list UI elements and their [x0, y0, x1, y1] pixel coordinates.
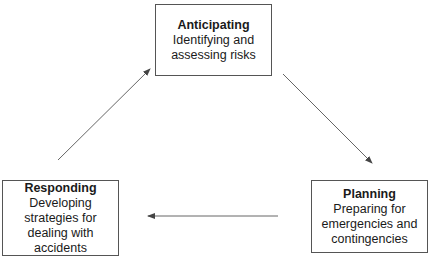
node-text-line: contingencies	[331, 232, 407, 247]
node-responding: Responding Developing strategies for dea…	[2, 180, 119, 256]
node-title: Planning	[343, 187, 396, 202]
node-text-line: Developing	[29, 196, 92, 211]
node-text-line: accidents	[34, 241, 87, 256]
node-text-line: strategies for	[24, 211, 96, 226]
arrow-anticipating-to-planning	[283, 74, 372, 163]
node-title: Responding	[24, 181, 96, 196]
node-text-line: dealing with	[27, 226, 93, 241]
arrow-responding-to-anticipating	[58, 69, 150, 160]
node-text-line: emergencies and	[322, 217, 418, 232]
node-planning: Planning Preparing for emergencies and c…	[311, 180, 428, 253]
node-text-line: Preparing for	[333, 202, 405, 217]
node-anticipating: Anticipating Identifying and assessing r…	[155, 4, 272, 76]
node-text-line: Identifying and	[173, 33, 254, 48]
node-text-line: assessing risks	[171, 48, 256, 63]
node-title: Anticipating	[177, 18, 249, 33]
